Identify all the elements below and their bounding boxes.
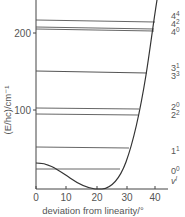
x-tick-label: 0 bbox=[33, 192, 39, 203]
x-tick-label: 30 bbox=[121, 192, 133, 203]
level-2-0 bbox=[36, 108, 139, 109]
y-axis-label: (E/hc)/cm⁻¹ bbox=[2, 86, 13, 135]
energy-level-chart: 200 100 0 10 20 30 40 deviation from lin… bbox=[0, 0, 185, 217]
svg-text:11: 11 bbox=[171, 145, 180, 156]
level-1-1 bbox=[36, 147, 129, 148]
level-2-2 bbox=[36, 114, 138, 115]
x-tick-label: 20 bbox=[91, 192, 103, 203]
svg-text:vl: vl bbox=[171, 175, 178, 186]
svg-text:33: 33 bbox=[171, 70, 180, 81]
svg-text:40: 40 bbox=[171, 26, 180, 37]
x-axis-label: deviation from linearity/° bbox=[42, 205, 144, 216]
energy-levels bbox=[36, 20, 155, 169]
level-3 bbox=[36, 71, 147, 73]
level-4-0 bbox=[36, 29, 154, 31]
y-tick-label: 100 bbox=[14, 105, 31, 116]
level-4-2 bbox=[36, 27, 154, 29]
x-tick-label: 40 bbox=[149, 192, 161, 203]
x-tick-label: 10 bbox=[60, 192, 72, 203]
level-4-4 bbox=[36, 20, 155, 22]
y-tick-label: 200 bbox=[14, 28, 31, 39]
svg-text:22: 22 bbox=[171, 109, 180, 120]
level-labels: 44 42 40 31 33 20 22 11 00 vl bbox=[171, 10, 180, 186]
